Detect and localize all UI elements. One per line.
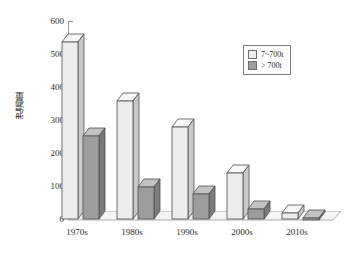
dark-square-icon — [248, 61, 257, 70]
x-tick-label-2000s: 2000s — [214, 228, 270, 237]
bar-2010s-over-700t — [303, 210, 331, 221]
y-axis-title: 泄漏量 — [14, 92, 28, 119]
y-tick-label-600: 600 — [38, 17, 64, 26]
legend-label-over-700t: > 700t — [261, 61, 282, 70]
y-tick-label-100: 100 — [38, 182, 64, 191]
x-tick-label-1970s: 1970s — [49, 228, 105, 237]
y-tick-label-500: 500 — [38, 50, 64, 59]
bar-1970s-over-700t — [83, 128, 111, 220]
x-tick-label-1980s: 1980s — [104, 228, 160, 237]
bar-chart: 泄漏量 600 500 400 300 200 100 0 — [0, 0, 352, 253]
legend-item-over-700t: > 700t — [248, 60, 284, 71]
bar-2000s-over-700t — [248, 201, 276, 220]
x-tick-label-1990s: 1990s — [159, 228, 215, 237]
y-tick-label-400: 400 — [38, 83, 64, 92]
y-tick-label-300: 300 — [38, 116, 64, 125]
legend-label-7-700t: 7~700t — [261, 50, 284, 59]
bar-1990s-over-700t — [193, 186, 221, 220]
legend-item-7-700t: 7~700t — [248, 49, 284, 60]
light-square-icon — [248, 50, 257, 59]
y-tick-label-0: 0 — [38, 215, 64, 224]
y-tick-mark-600 — [69, 21, 73, 22]
y-tick-label-200: 200 — [38, 149, 64, 158]
legend: 7~700t > 700t — [243, 45, 291, 75]
bar-1980s-over-700t — [138, 179, 166, 220]
x-tick-label-2010s: 2010s — [269, 228, 325, 237]
